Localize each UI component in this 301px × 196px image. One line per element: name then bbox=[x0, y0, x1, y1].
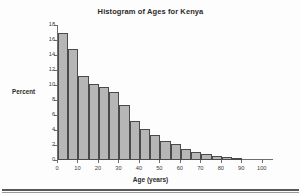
plot-area: 024681012141618 0102030405060708090100 bbox=[57, 25, 273, 162]
histogram-bar bbox=[160, 141, 170, 161]
histogram-bar bbox=[181, 149, 191, 160]
histogram-bar bbox=[58, 33, 68, 160]
histogram-bar bbox=[171, 144, 181, 160]
x-tick-mark bbox=[180, 160, 181, 163]
x-tick-mark bbox=[139, 160, 140, 163]
histogram-bar bbox=[150, 135, 160, 160]
x-tick-label: 80 bbox=[218, 165, 224, 171]
x-tick-mark bbox=[159, 160, 160, 163]
y-tick-label: 2 bbox=[52, 141, 55, 147]
histogram-bars bbox=[58, 25, 273, 160]
y-tick-label: 4 bbox=[52, 126, 55, 132]
x-tick-label: 20 bbox=[95, 165, 101, 171]
histogram-bar bbox=[68, 49, 78, 160]
x-axis-label: Age (years) bbox=[0, 176, 301, 183]
x-tick-mark bbox=[77, 160, 78, 163]
x-tick-label: 60 bbox=[177, 165, 183, 171]
x-tick-mark bbox=[221, 160, 222, 163]
x-tick-label: 90 bbox=[238, 165, 244, 171]
y-tick-label: 6 bbox=[52, 111, 55, 117]
histogram-bar bbox=[119, 105, 129, 160]
x-tick-label: 10 bbox=[74, 165, 80, 171]
page-divider-shadow bbox=[2, 192, 299, 193]
histogram-bar bbox=[109, 92, 119, 160]
x-tick-mark bbox=[98, 160, 99, 163]
page-divider bbox=[2, 189, 299, 191]
histogram-bar bbox=[222, 157, 232, 160]
x-tick-label: 70 bbox=[197, 165, 203, 171]
chart-title: Histogram of Ages for Kenya bbox=[0, 7, 301, 16]
x-tick-mark bbox=[118, 160, 119, 163]
y-tick-label: 10 bbox=[49, 81, 55, 87]
y-tick-label: 12 bbox=[49, 66, 55, 72]
x-tick-label: 30 bbox=[115, 165, 121, 171]
histogram-bar bbox=[191, 152, 201, 160]
histogram-bar bbox=[78, 76, 88, 160]
y-tick-label: 14 bbox=[49, 51, 55, 57]
histogram-bar bbox=[99, 87, 109, 161]
chart-page: Histogram of Ages for Kenya Percent 0246… bbox=[0, 0, 301, 196]
x-tick-mark bbox=[200, 160, 201, 163]
x-tick-label: 0 bbox=[55, 165, 58, 171]
x-tick-label: 50 bbox=[156, 165, 162, 171]
x-tick-mark bbox=[241, 160, 242, 163]
y-tick-label: 16 bbox=[49, 36, 55, 42]
y-axis-label: Percent bbox=[12, 88, 35, 95]
x-tick-mark bbox=[57, 160, 58, 163]
histogram-bar bbox=[130, 121, 140, 160]
x-tick-mark bbox=[262, 160, 263, 163]
histogram-bar bbox=[201, 154, 211, 160]
x-tick-label: 40 bbox=[136, 165, 142, 171]
histogram-bar bbox=[89, 84, 99, 160]
y-tick-label: 18 bbox=[49, 21, 55, 27]
y-tick-label: 8 bbox=[52, 96, 55, 102]
y-tick-label: 0 bbox=[52, 156, 55, 162]
histogram-bar bbox=[140, 129, 150, 160]
x-tick-label: 100 bbox=[257, 165, 267, 171]
